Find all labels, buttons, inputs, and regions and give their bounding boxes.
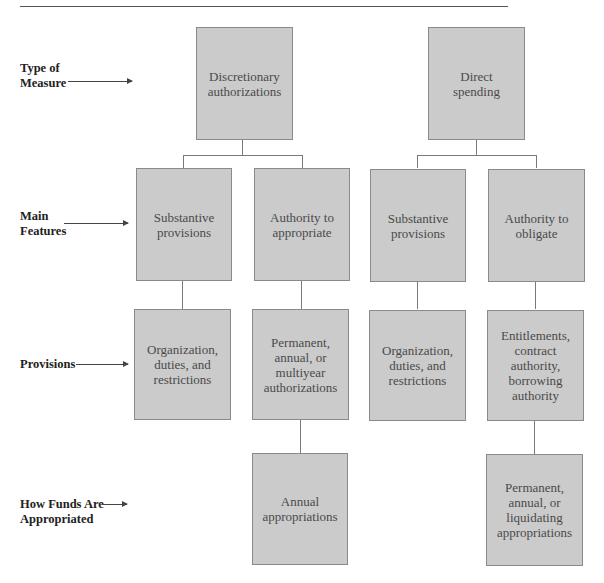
node-text: Substantive provisions — [154, 210, 215, 240]
connector — [302, 155, 303, 168]
row-label-provisions: Provisions — [20, 357, 75, 372]
node-substantive-provisions-right: Substantive provisions — [370, 169, 466, 282]
arrow-icon — [64, 223, 128, 224]
connector — [536, 155, 537, 168]
connector — [242, 140, 243, 155]
connector — [534, 421, 535, 454]
node-text: Direct spending — [453, 69, 500, 99]
connector — [182, 281, 183, 309]
node-authority-to-obligate: Authority to obligate — [488, 169, 585, 282]
node-organization-duties-left: Organization, duties, and restrictions — [134, 309, 231, 420]
node-substantive-provisions-left: Substantive provisions — [136, 168, 232, 281]
node-text: Permanent, annual, or multiyear authoriz… — [264, 335, 338, 395]
node-text: Organization, duties, and restrictions — [147, 342, 218, 387]
node-text: Discretionary authorizations — [208, 69, 282, 99]
node-permanent-liquidating-appropriations: Permanent, annual, or liquidating approp… — [486, 454, 583, 566]
arrow-icon — [76, 364, 128, 365]
arrow-icon — [103, 504, 127, 505]
node-text: Authority to appropriate — [270, 210, 334, 240]
node-direct-spending: Direct spending — [428, 27, 525, 140]
row-label-main-features: Main Features — [20, 209, 66, 239]
node-organization-duties-right: Organization, duties, and restrictions — [369, 310, 466, 421]
connector — [476, 140, 477, 155]
node-discretionary-authorizations: Discretionary authorizations — [196, 27, 293, 140]
node-authority-to-appropriate: Authority to appropriate — [254, 168, 350, 281]
node-text: Authority to obligate — [505, 211, 569, 241]
node-annual-appropriations: Annual appropriations — [252, 453, 348, 565]
header-rule — [20, 6, 508, 7]
connector — [417, 155, 418, 168]
connector — [183, 155, 303, 156]
connector — [183, 155, 184, 168]
node-text: Annual appropriations — [262, 494, 337, 524]
row-label-type-of-measure: Type of Measure — [20, 61, 66, 91]
node-text: Permanent, annual, or liquidating approp… — [497, 480, 572, 540]
connector — [535, 282, 536, 309]
node-text: Organization, duties, and restrictions — [382, 343, 453, 388]
connector — [301, 281, 302, 309]
connector — [417, 155, 537, 156]
node-entitlements: Entitlements, contract authority, borrow… — [487, 310, 584, 421]
connector — [300, 420, 301, 453]
node-text: Substantive provisions — [388, 211, 449, 241]
row-label-how-funds-appropriated: How Funds Are Appropriated — [20, 497, 104, 527]
node-text: Entitlements, contract authority, borrow… — [501, 328, 570, 403]
connector — [417, 282, 418, 309]
arrow-icon — [68, 81, 132, 82]
node-permanent-multiyear-authorizations: Permanent, annual, or multiyear authoriz… — [252, 309, 349, 420]
